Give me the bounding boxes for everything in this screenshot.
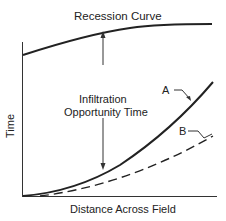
arrow-down-icon [101, 163, 106, 170]
curve-a-label: A [162, 84, 169, 96]
leader-a-arrow-icon [186, 96, 191, 101]
curve-b [40, 136, 213, 196]
y-axis-label: Time [4, 114, 16, 138]
recession-curve [23, 24, 212, 55]
chart-title: Recession Curve [74, 10, 162, 22]
annotation-line1: Infiltration [79, 93, 127, 105]
curve-b-label: B [179, 125, 186, 137]
annotation-line2: Opportunity Time [64, 106, 148, 118]
x-axis-label: Distance Across Field [70, 203, 176, 215]
leader-b [188, 131, 212, 138]
